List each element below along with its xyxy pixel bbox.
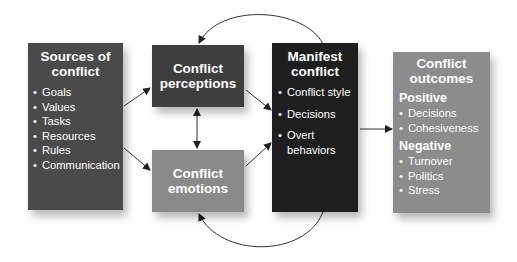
manifest-title-line2: conflict [272, 64, 358, 79]
sources-list: Goals Values Tasks Resources Rules Commu… [33, 85, 123, 172]
emotions-title-line2: emotions [168, 181, 228, 196]
list-item: Communication [33, 158, 123, 173]
sources-title-line2: conflict [28, 64, 123, 79]
list-item: Turnover [399, 154, 490, 169]
list-item: Goals [33, 85, 123, 100]
list-item: Overt [278, 128, 358, 143]
outcomes-title: Conflict outcomes [393, 56, 490, 86]
perceptions-title-line1: Conflict [160, 61, 237, 76]
manifest-item-continuation: behaviors [287, 143, 358, 158]
perceptions-title: Conflict perceptions [160, 61, 237, 91]
list-item: Decisions [278, 107, 358, 122]
sources-title: Sources of conflict [28, 49, 123, 79]
manifest-list: Conflict style Decisions Overt [278, 85, 358, 143]
emotions-title-line1: Conflict [168, 166, 228, 181]
conflict-emotions-box: Conflict emotions [152, 150, 244, 212]
list-item: Stress [399, 183, 490, 198]
manifest-title-line1: Manifest [272, 49, 358, 64]
emotions-title: Conflict emotions [168, 166, 228, 196]
arrow-perceptions-to-manifest [246, 90, 271, 110]
list-item: Rules [33, 143, 123, 158]
manifest-conflict-box: Manifest conflict Conflict style Decisio… [272, 43, 358, 212]
arrow-feedback-top [199, 15, 323, 44]
list-item: Values [33, 100, 123, 115]
list-item: Politics [399, 169, 490, 184]
sources-title-line1: Sources of [28, 49, 123, 64]
arrow-emotions-to-manifest [246, 143, 271, 166]
positive-label: Positive [399, 91, 490, 106]
list-item: Conflict style [278, 85, 358, 100]
negative-label: Negative [399, 139, 490, 154]
positive-list: Decisions Cohesiveness [399, 106, 490, 135]
sources-of-conflict-box: Sources of conflict Goals Values Tasks R… [28, 43, 123, 210]
arrow-feedback-bottom [199, 212, 323, 247]
manifest-title: Manifest conflict [272, 49, 358, 79]
list-item: Tasks [33, 114, 123, 129]
conflict-outcomes-box: Conflict outcomes Positive Decisions Coh… [393, 52, 490, 213]
arrow-sources-to-emotions [124, 148, 150, 170]
list-item: Cohesiveness [399, 121, 490, 136]
perceptions-title-line2: perceptions [160, 76, 237, 91]
list-item: Resources [33, 129, 123, 144]
outcomes-title-line2: outcomes [393, 71, 490, 86]
list-item: Decisions [399, 106, 490, 121]
outcomes-title-line1: Conflict [393, 56, 490, 71]
arrow-sources-to-perceptions [124, 88, 150, 106]
conflict-perceptions-box: Conflict perceptions [152, 45, 244, 107]
negative-list: Turnover Politics Stress [399, 154, 490, 198]
